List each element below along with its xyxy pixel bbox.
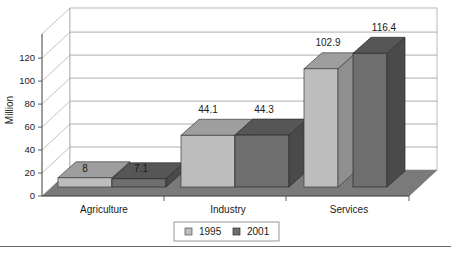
x-category-label-agriculture: Agriculture <box>80 204 128 215</box>
y-tick-label-80: 80 <box>24 98 35 109</box>
value-label-industry-2001: 44.3 <box>254 104 274 115</box>
bar-services-2001 <box>353 37 405 187</box>
value-label-agriculture-2001: 7.1 <box>134 163 148 174</box>
y-tick-label-120: 120 <box>19 52 35 63</box>
y-tick-label-60: 60 <box>24 121 35 132</box>
value-label-industry-1995: 44.1 <box>198 104 218 115</box>
legend-swatch-icon-1995 <box>185 228 192 235</box>
y-axis-title: Million <box>4 96 15 124</box>
bar-industry-2001 <box>235 119 307 187</box>
chart-container: 120 100 80 60 40 20 0 Million 8 <box>0 0 451 253</box>
chart-legend[interactable]: 1995 2001 <box>174 222 279 241</box>
y-tick-label-20: 20 <box>24 167 35 178</box>
value-label-services-2001: 116.4 <box>372 22 397 33</box>
bar-services-1995 <box>304 53 356 187</box>
legend-swatch-icon-2001 <box>233 228 240 235</box>
x-category-label-industry: Industry <box>210 204 246 215</box>
y-axis-ticks <box>38 58 42 196</box>
y-tick-label-0: 0 <box>30 190 35 201</box>
x-category-label-services: Services <box>330 204 368 215</box>
x-axis-ticks <box>164 196 409 201</box>
legend-label-2001: 2001 <box>247 226 270 237</box>
value-label-services-1995: 102.9 <box>315 37 340 48</box>
bar-chart-3d: 120 100 80 60 40 20 0 Million 8 <box>0 0 451 253</box>
y-tick-label-40: 40 <box>24 144 35 155</box>
y-tick-label-100: 100 <box>19 75 35 86</box>
value-label-agriculture-1995: 8 <box>82 163 88 174</box>
legend-label-1995: 1995 <box>199 226 222 237</box>
